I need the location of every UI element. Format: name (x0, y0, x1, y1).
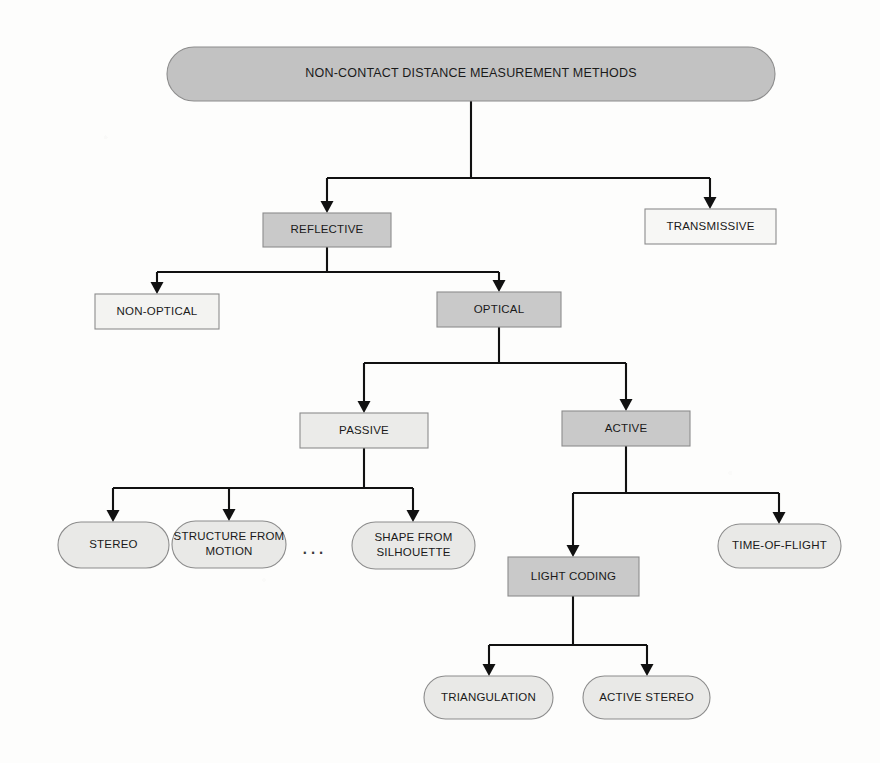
edge-optical-passive (358, 327, 627, 413)
edge-line (327, 101, 710, 205)
node-time-of-flight[interactable]: TIME-OF-FLIGHT (718, 524, 841, 568)
node-active-stereo[interactable]: ACTIVE STEREO (583, 676, 710, 719)
node-label-passive: PASSIVE (339, 424, 389, 436)
node-light-coding[interactable]: LIGHT CODING (508, 557, 639, 596)
node-non-optical[interactable]: NON-OPTICAL (95, 294, 219, 329)
node-stereo[interactable]: STEREO (58, 522, 169, 568)
node-triangulation[interactable]: TRIANGULATION (424, 676, 553, 719)
edge-passive-sfm (223, 488, 236, 521)
node-label-optical: OPTICAL (474, 303, 525, 315)
ellipsis-annotation: ... (302, 534, 326, 559)
node-label-non-optical: NON-OPTICAL (117, 305, 198, 317)
edge-passive-stereo (107, 448, 414, 522)
node-label-root: NON-CONTACT DISTANCE MEASUREMENT METHODS (305, 66, 636, 80)
node-label-stereo: STEREO (89, 538, 138, 550)
edge-reflective-optical (493, 272, 506, 292)
arrowhead-icon (567, 545, 580, 557)
arrowhead-icon (641, 664, 654, 676)
node-reflective[interactable]: REFLECTIVE (263, 213, 391, 247)
taxonomy-diagram: NON-CONTACT DISTANCE MEASUREMENT METHODS… (0, 0, 880, 763)
arrowhead-icon (107, 510, 120, 522)
node-label-time-of-flight: TIME-OF-FLIGHT (732, 539, 827, 551)
arrowhead-icon (493, 280, 506, 292)
node-label-transmissive: TRANSMISSIVE (666, 220, 754, 232)
node-label-active-stereo: ACTIVE STEREO (599, 691, 694, 703)
edge-line (489, 596, 647, 668)
node-label-reflective: REFLECTIVE (291, 223, 364, 235)
edge-line (113, 448, 413, 514)
edge-root-transmissive (704, 178, 717, 209)
arrowhead-icon (358, 401, 371, 413)
node-structure-from-motion[interactable]: STRUCTURE FROMMOTION (172, 521, 286, 568)
arrowhead-icon (223, 509, 236, 521)
arrowhead-icon (773, 512, 786, 524)
edge-active-tof (773, 493, 786, 524)
arrowhead-icon (151, 282, 164, 294)
edge-reflective-nonoptical (151, 247, 500, 294)
annotations-layer: ... (302, 534, 326, 559)
nodes-layer: NON-CONTACT DISTANCE MEASUREMENT METHODS… (58, 47, 841, 719)
arrowhead-icon (704, 197, 717, 209)
arrowhead-icon (483, 664, 496, 676)
node-label-active: ACTIVE (605, 422, 648, 434)
edge-lightcoding-activestereo (641, 645, 654, 676)
node-root[interactable]: NON-CONTACT DISTANCE MEASUREMENT METHODS (167, 47, 775, 101)
node-shape-from-silhouette[interactable]: SHAPE FROMSILHOUETTE (352, 522, 475, 569)
edge-passive-shape-silhouette (407, 488, 420, 522)
node-transmissive[interactable]: TRANSMISSIVE (645, 209, 776, 244)
edge-root-reflective (321, 101, 711, 213)
edge-line (157, 247, 499, 286)
arrowhead-icon (407, 510, 420, 522)
arrowhead-icon (620, 399, 633, 411)
node-label-triangulation: TRIANGULATION (441, 691, 536, 703)
diagram-canvas: NON-CONTACT DISTANCE MEASUREMENT METHODS… (0, 0, 880, 763)
edge-optical-active (620, 363, 633, 411)
node-optical[interactable]: OPTICAL (437, 292, 561, 327)
node-label-light-coding: LIGHT CODING (531, 570, 616, 582)
arrowhead-icon (321, 201, 334, 213)
edge-lightcoding-triangulation (483, 596, 648, 676)
edges-layer (107, 101, 786, 676)
node-passive[interactable]: PASSIVE (300, 413, 428, 448)
node-active[interactable]: ACTIVE (562, 411, 690, 446)
edge-line (364, 327, 626, 405)
